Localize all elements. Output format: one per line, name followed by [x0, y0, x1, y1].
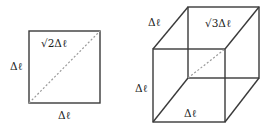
cube-figure: Δℓ √3Δℓ Δℓ Δℓ — [135, 7, 259, 122]
square-side-label-left: Δℓ — [10, 60, 23, 72]
square-figure: √2Δℓ Δℓ Δℓ — [10, 31, 100, 121]
cube-edge-label-top-left: Δℓ — [148, 16, 161, 28]
square-diagonal-label: √2Δℓ — [41, 37, 67, 49]
cube-edge-label-bottom: Δℓ — [184, 107, 197, 119]
square-and-cube-diagonal-diagram: √2Δℓ Δℓ Δℓ Δℓ √3Δℓ Δℓ Δℓ — [0, 0, 272, 135]
square-side-label-bottom: Δℓ — [58, 109, 71, 121]
cube-edge-bottom-left — [153, 78, 188, 122]
cube-diagonal-label: √3Δℓ — [205, 17, 231, 29]
cube-diagonal — [188, 49, 225, 78]
cube-edge-top-left — [153, 7, 188, 49]
cube-edge-bottom-right — [225, 78, 259, 122]
cube-edge-label-left: Δℓ — [135, 82, 148, 94]
